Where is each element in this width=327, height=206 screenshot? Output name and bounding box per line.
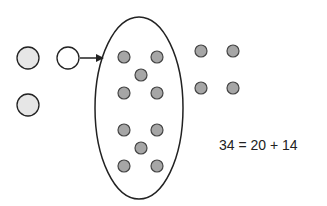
dot: [227, 82, 239, 94]
light-circle: [17, 47, 39, 69]
dot: [135, 142, 147, 154]
dot: [118, 87, 130, 99]
grouping-ellipse: [95, 17, 183, 199]
dot: [195, 45, 207, 57]
dot: [151, 160, 163, 172]
dot: [118, 160, 130, 172]
dot: [195, 82, 207, 94]
ellipse-dots: [118, 51, 163, 172]
dot: [151, 87, 163, 99]
right-dots: [195, 45, 239, 94]
left-circles: [17, 47, 79, 116]
dot: [151, 51, 163, 63]
dot: [135, 69, 147, 81]
dot: [118, 124, 130, 136]
equation-text: 34 = 20 + 14: [219, 137, 298, 153]
open-circle: [57, 47, 79, 69]
dot: [227, 45, 239, 57]
light-circle: [17, 94, 39, 116]
dot: [151, 124, 163, 136]
grouping-diagram: 34 = 20 + 14: [0, 0, 327, 206]
dot: [118, 51, 130, 63]
